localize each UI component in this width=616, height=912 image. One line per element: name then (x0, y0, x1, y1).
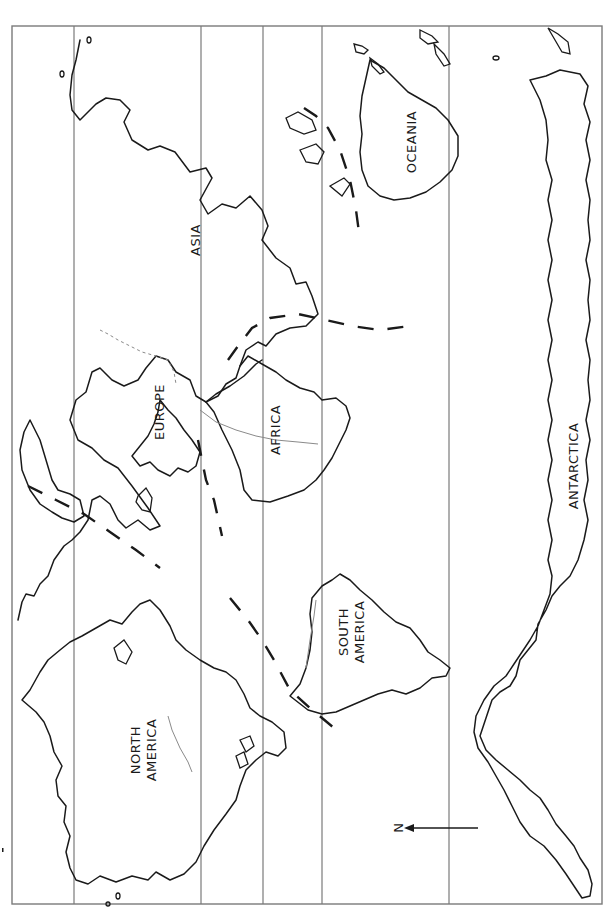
label-africa: AFRICA (268, 405, 283, 455)
british-isles (136, 488, 152, 512)
label-south-america: SOUTH (336, 608, 351, 656)
eurasia-coastline (18, 40, 318, 620)
north-letter: N (391, 823, 406, 833)
label-south-america-2: AMERICA (352, 601, 367, 664)
map-frame (12, 26, 602, 904)
label-oceania: OCEANIA (404, 111, 419, 173)
label-north-america-2: AMERICA (144, 719, 159, 782)
label-europe: EUROPE (152, 384, 167, 440)
river-mississippi (168, 716, 192, 772)
label-asia: ASIA (188, 224, 203, 256)
label-antarctica: ANTARCTICA (566, 423, 581, 510)
arabia-coastline (206, 360, 262, 402)
label-north-america: NORTH (128, 726, 143, 774)
north-arrow: N (391, 823, 478, 833)
south-america-coastline (290, 574, 450, 714)
europe-asia-border (100, 330, 176, 384)
river-nile (200, 410, 318, 444)
margin-tick (2, 848, 4, 852)
world-map: NORTH AMERICA SOUTH AMERICA EUROPE AFRIC… (0, 0, 616, 912)
